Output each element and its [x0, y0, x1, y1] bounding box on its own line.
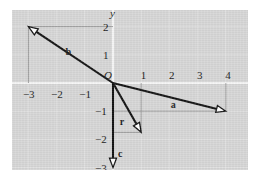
x-tick-3: 3	[197, 70, 203, 81]
origin-label: O	[104, 70, 112, 81]
arrowhead-b	[28, 27, 38, 35]
arrowhead-r	[133, 122, 141, 132]
figure-root: yxO−3−2−1123421−1−2−3abcr	[0, 0, 262, 180]
y-tick-2: 2	[103, 22, 109, 33]
y-tick--2: −2	[95, 134, 107, 145]
vector-shaft-a	[113, 83, 219, 110]
x-tick-4: 4	[225, 70, 231, 81]
x-tick-2: 2	[169, 70, 175, 81]
x-tick--2: −2	[51, 89, 63, 100]
vector-shaft-b	[34, 30, 113, 83]
y-tick-1: 1	[103, 50, 109, 61]
arrowhead-a	[216, 106, 226, 113]
y-tick--3: −3	[95, 163, 107, 170]
vector-label-r: r	[120, 117, 124, 127]
vector-label-c: c	[118, 149, 122, 159]
vector-label-a: a	[171, 100, 176, 110]
y-axis-label: y	[110, 10, 115, 19]
vector-plot	[12, 10, 248, 170]
arrowhead-c	[110, 158, 117, 168]
x-tick-1: 1	[141, 70, 147, 81]
vector-shaft-r	[113, 83, 138, 126]
figure-panel: yxO−3−2−1123421−1−2−3abcr	[12, 10, 248, 170]
y-tick--1: −1	[95, 106, 107, 117]
x-tick--1: −1	[79, 89, 91, 100]
x-tick--3: −3	[23, 89, 35, 100]
vector-label-b: b	[66, 47, 72, 57]
